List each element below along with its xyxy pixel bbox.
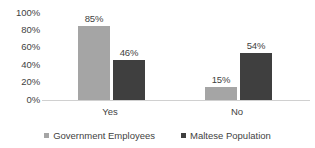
bar-label-yes-maltese-population: 46% bbox=[103, 48, 155, 58]
legend-label-government-employees: Government Employees bbox=[53, 130, 155, 141]
bar-no-government-employees bbox=[205, 87, 237, 100]
legend: Government Employees Maltese Population bbox=[0, 128, 315, 142]
bar-yes-government-employees bbox=[78, 26, 110, 100]
y-axis-tick-0: 0% bbox=[6, 95, 40, 105]
y-axis: 100% 80% 60% 40% 20% 0% bbox=[6, 8, 40, 104]
category-label-yes: Yes bbox=[85, 106, 135, 117]
plot-area: 85% 46% 15% 54% bbox=[42, 13, 310, 100]
x-axis-line bbox=[42, 100, 310, 101]
y-axis-tick-80: 80% bbox=[6, 25, 40, 35]
bar-label-no-maltese-population: 54% bbox=[230, 41, 282, 51]
legend-swatch-icon bbox=[44, 133, 49, 138]
legend-item-government-employees[interactable]: Government Employees bbox=[44, 130, 155, 141]
y-axis-tick-20: 20% bbox=[6, 77, 40, 87]
y-axis-tick-100: 100% bbox=[6, 8, 40, 18]
bar-no-maltese-population bbox=[240, 53, 272, 100]
bar-chart: 100% 80% 60% 40% 20% 0% 85% 46% 15% 54% … bbox=[0, 0, 315, 148]
legend-label-maltese-population: Maltese Population bbox=[190, 130, 271, 141]
y-axis-tick-40: 40% bbox=[6, 60, 40, 70]
y-axis-tick-60: 60% bbox=[6, 42, 40, 52]
category-label-no: No bbox=[212, 106, 262, 117]
bar-label-yes-government-employees: 85% bbox=[68, 14, 120, 24]
bar-yes-maltese-population bbox=[113, 60, 145, 100]
legend-swatch-icon bbox=[181, 133, 186, 138]
legend-item-maltese-population[interactable]: Maltese Population bbox=[181, 130, 271, 141]
